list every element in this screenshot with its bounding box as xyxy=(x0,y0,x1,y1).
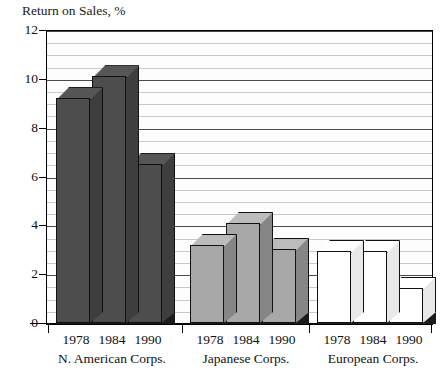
y-axis-tick xyxy=(39,128,47,129)
x-axis-year-label: 1984 xyxy=(360,332,387,348)
x-axis-year-label: 1978 xyxy=(63,332,90,348)
y-axis-tick xyxy=(39,30,47,31)
x-axis-group-label: European Corps. xyxy=(328,351,419,367)
bar-3d-front xyxy=(317,251,351,323)
x-axis-year-label: 1990 xyxy=(396,332,423,348)
x-axis-year-label: 1990 xyxy=(135,332,162,348)
y-axis-tick xyxy=(39,225,47,226)
x-axis-tick xyxy=(309,323,310,333)
y-axis-label: 2 xyxy=(8,266,38,282)
bar-european-corps--1978 xyxy=(317,240,364,323)
y-axis-tick xyxy=(39,79,47,80)
y-axis-label: 12 xyxy=(8,22,38,38)
y-axis-tick xyxy=(39,274,47,275)
y-axis-tick xyxy=(39,177,47,178)
bar-3d-front xyxy=(56,98,90,323)
x-axis-tick xyxy=(431,323,432,333)
bar-n-american-corps--1978 xyxy=(56,87,103,323)
x-axis-tick xyxy=(48,323,49,333)
x-axis-year-label: 1984 xyxy=(233,332,260,348)
x-axis-tick xyxy=(182,323,183,333)
y-axis-label: 4 xyxy=(8,217,38,233)
x-axis-year-label: 1984 xyxy=(99,332,126,348)
x-axis-year-label: 1978 xyxy=(197,332,224,348)
chart-container: Return on Sales, % 024681012 19781984199… xyxy=(0,0,443,370)
x-axis-year-label: 1990 xyxy=(269,332,296,348)
x-axis-year-label: 1978 xyxy=(324,332,351,348)
bar-3d-front xyxy=(190,245,224,323)
bar-japanese-corps--1978 xyxy=(190,234,237,323)
x-axis-group-label: N. American Corps. xyxy=(58,351,166,367)
y-axis-label: 6 xyxy=(8,169,38,185)
x-axis-group-label: Japanese Corps. xyxy=(203,351,290,367)
y-axis-label: 10 xyxy=(8,71,38,87)
y-axis-label: 8 xyxy=(8,120,38,136)
